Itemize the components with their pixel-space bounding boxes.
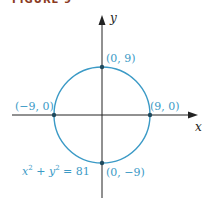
point-label-0-9: (0, 9)	[106, 52, 136, 65]
point-label-0-neg9: (0, −9)	[106, 166, 145, 179]
x-axis-label: x	[195, 120, 202, 134]
y-axis-arrow-icon	[99, 15, 106, 25]
point-neg9-0	[52, 113, 56, 117]
point-0-neg9	[100, 161, 104, 165]
x-axis-arrow-icon	[188, 112, 198, 119]
point-9-0	[148, 113, 152, 117]
point-0-9	[100, 65, 104, 69]
y-axis-label: y	[109, 11, 117, 25]
point-label-9-0: (9, 0)	[150, 100, 180, 113]
circle-diagram: x y (0, 9) (−9, 0) (9, 0) (0, −9) x2 + y…	[0, 0, 212, 213]
circle-equation: x2 + y2 = 81	[22, 164, 90, 178]
point-label-neg9-0: (−9, 0)	[15, 100, 54, 113]
